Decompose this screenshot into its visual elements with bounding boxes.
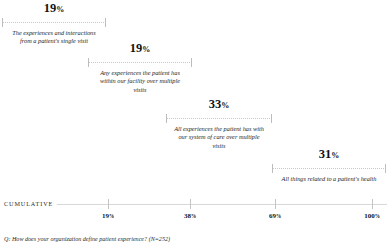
axis-tick-1 xyxy=(108,199,109,209)
segment-4-percent-value: 31 xyxy=(319,147,332,161)
axis-tick-label-1-symbol: % xyxy=(109,213,114,219)
segment-3-bracket xyxy=(166,114,272,123)
segment-4-bracket xyxy=(272,164,386,173)
stepped-cumulative-chart: 19% The experiences and interactions fro… xyxy=(0,0,389,249)
segment-4-bracket-tick-left xyxy=(272,164,273,173)
segment-1-percent-value: 19 xyxy=(44,1,57,15)
chart-segment-1: 19% The experiences and interactions fro… xyxy=(2,2,106,46)
segment-2-label: Any experiences the patient has within o… xyxy=(88,69,192,95)
segment-3-percent-symbol: % xyxy=(221,101,229,110)
segment-1-percent: 19% xyxy=(2,2,106,15)
axis-tick-label-1-value: 19 xyxy=(102,212,109,220)
axis-tick-3 xyxy=(275,199,276,209)
axis-tick-label-2: 38% xyxy=(184,212,196,220)
chart-segment-4: 31% All things related to a patient's he… xyxy=(272,148,386,183)
cumulative-axis: CUMULATIVE 19% 38% 69% 100% xyxy=(0,198,389,212)
segment-1-bracket-tick-right xyxy=(105,18,106,27)
axis-tick-label-3-symbol: % xyxy=(276,213,281,219)
axis-tick-label-2-value: 38 xyxy=(184,212,191,220)
segment-1-bracket-tick-left xyxy=(2,18,3,27)
segment-2-percent: 19% xyxy=(88,42,192,55)
segment-1-bracket xyxy=(2,18,106,27)
segment-2-percent-symbol: % xyxy=(142,45,150,54)
segment-3-percent-value: 33 xyxy=(209,97,222,111)
cumulative-axis-caption: CUMULATIVE xyxy=(4,200,53,207)
segment-1-bracket-rule xyxy=(2,22,106,23)
axis-tick-2 xyxy=(190,199,191,209)
chart-segment-3: 33% All experiences the patient has with… xyxy=(166,98,272,151)
segment-2-bracket xyxy=(88,58,192,67)
axis-tick-label-3: 69% xyxy=(269,212,281,220)
segment-4-label: All things related to a patient's health xyxy=(272,175,386,184)
segment-2-bracket-rule xyxy=(88,62,192,63)
chart-segment-2: 19% Any experiences the patient has with… xyxy=(88,42,192,95)
axis-tick-label-4-value: 100 xyxy=(364,212,375,220)
segment-2-percent-value: 19 xyxy=(130,41,143,55)
axis-tick-label-1: 19% xyxy=(102,212,114,220)
segment-3-bracket-tick-left xyxy=(166,114,167,123)
axis-tick-label-3-value: 69 xyxy=(269,212,276,220)
segment-3-percent: 33% xyxy=(166,98,272,111)
axis-tick-4 xyxy=(372,199,373,209)
segment-4-bracket-tick-right xyxy=(385,164,386,173)
axis-tick-label-4-symbol: % xyxy=(375,213,380,219)
cumulative-axis-line xyxy=(57,204,387,205)
segment-4-bracket-rule xyxy=(272,168,386,169)
segment-4-percent-symbol: % xyxy=(331,151,339,160)
axis-tick-label-2-symbol: % xyxy=(191,213,196,219)
segment-2-bracket-tick-right xyxy=(191,58,192,67)
segment-3-label: All experiences the patient has with our… xyxy=(166,125,272,151)
segment-3-bracket-tick-right xyxy=(271,114,272,123)
chart-footnote: Q: How does your organization define pat… xyxy=(4,236,170,242)
segment-3-bracket-rule xyxy=(166,118,272,119)
segment-4-percent: 31% xyxy=(272,148,386,161)
axis-tick-label-4: 100% xyxy=(364,212,380,220)
segment-2-bracket-tick-left xyxy=(88,58,89,67)
segment-1-percent-symbol: % xyxy=(56,5,64,14)
